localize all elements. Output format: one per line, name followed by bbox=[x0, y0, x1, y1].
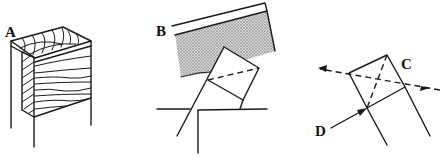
hatched-edge-icon bbox=[22, 56, 34, 113]
diagram-canvas: A bbox=[0, 0, 444, 159]
square-section bbox=[349, 55, 405, 108]
panel-c-section: C D bbox=[315, 55, 440, 145]
arrow-d-head-icon bbox=[357, 108, 367, 116]
top-face bbox=[11, 27, 91, 58]
ledge-step bbox=[198, 109, 267, 153]
label-a: A bbox=[5, 24, 16, 40]
arrow-d bbox=[331, 112, 360, 128]
panel-b-saw: B bbox=[156, 3, 275, 153]
end-grain-icon bbox=[20, 28, 79, 55]
panel-a-wood-block: A bbox=[5, 24, 91, 147]
label-d: D bbox=[315, 123, 326, 139]
arrow-left-icon bbox=[318, 65, 327, 72]
label-b: B bbox=[156, 23, 166, 39]
label-c: C bbox=[401, 56, 412, 72]
